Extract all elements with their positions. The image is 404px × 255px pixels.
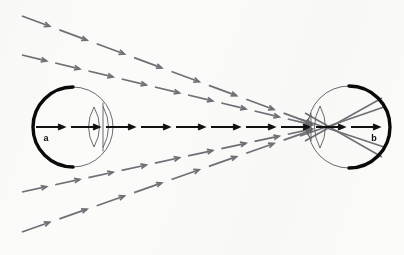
label-b: b bbox=[371, 133, 377, 143]
ray-upper-ray-1-seg-5-shaft bbox=[209, 85, 237, 95]
ray-lower-ray-2-seg-6-shaft bbox=[246, 144, 274, 154]
ray-upper-ray-1-seg-4-shaft bbox=[172, 72, 200, 82]
refracted-refracted-upper-inner bbox=[300, 107, 384, 136]
ray-diagram-canvas: ab bbox=[0, 0, 404, 255]
ray-lower-ray-2-seg-0-shaft bbox=[22, 222, 50, 232]
optics-diagram-svg: ab bbox=[0, 0, 404, 255]
label-a: a bbox=[43, 133, 49, 143]
ray-lower-ray-2-seg-3-shaft bbox=[134, 183, 162, 193]
ray-upper-ray-1-seg-3-shaft bbox=[134, 58, 162, 68]
ray-upper-ray-1-seg-1-shaft bbox=[59, 30, 87, 40]
ray-lower-ray-2-seg-4-shaft bbox=[172, 170, 200, 180]
ray-upper-ray-1-seg-6-shaft bbox=[246, 99, 274, 109]
ray-lower-ray-2-seg-2-shaft bbox=[97, 196, 125, 206]
ray-upper-ray-1-seg-2-shaft bbox=[97, 44, 125, 54]
ray-upper-ray-1-seg-0-shaft bbox=[22, 16, 50, 26]
ray-lower-ray-2-seg-5-shaft bbox=[209, 157, 237, 167]
ray-lower-ray-2-seg-1-shaft bbox=[59, 209, 87, 219]
